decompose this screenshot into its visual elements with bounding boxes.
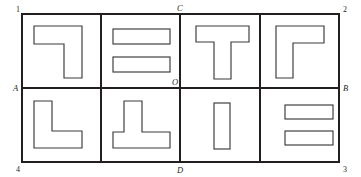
midpoint-label-a: A [12, 83, 19, 93]
midpoint-label-c: C [177, 3, 183, 13]
midpoint-label-d: D [176, 165, 184, 175]
figure-svg: 1234ABCDO [0, 0, 361, 177]
mirrored-l-piece-cell-top-1 [34, 26, 82, 78]
double-horizontal-bar-piece-bar-2-cell-top-2 [113, 57, 170, 72]
corner-label-3: 3 [343, 165, 347, 174]
double-horizontal-bar-piece-small-bar-1-cell-bottom-4 [285, 105, 333, 119]
inverted-t-piece-cell-bottom-2 [113, 101, 170, 148]
double-horizontal-bar-piece-small-bar-2-cell-bottom-4 [285, 131, 333, 145]
vertical-bar-piece-bar-1-cell-bottom-3 [214, 103, 230, 149]
midpoint-label-b: B [343, 83, 348, 93]
l-piece-cell-bottom-1 [34, 101, 82, 148]
t-piece-cell-top-3 [196, 26, 249, 79]
double-horizontal-bar-piece-bar-1-cell-top-2 [113, 29, 170, 44]
corner-label-1: 1 [16, 5, 20, 14]
gamma-piece-cell-top-4 [276, 26, 324, 78]
corner-label-2: 2 [343, 5, 347, 14]
figure-container: 1234ABCDO [0, 0, 361, 177]
corner-label-4: 4 [16, 165, 20, 174]
midpoint-label-o: O [172, 77, 178, 87]
